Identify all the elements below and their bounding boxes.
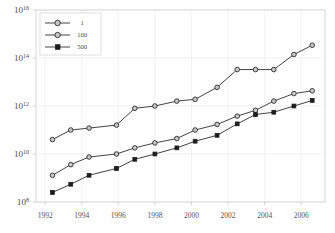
x-tick-label: 1994 <box>74 211 89 220</box>
data-point-marker <box>271 67 276 72</box>
data-point-marker <box>215 122 220 127</box>
data-point-marker <box>133 157 137 161</box>
data-point-marker <box>215 133 219 137</box>
data-point-marker <box>193 128 198 133</box>
x-tick-label: 1992 <box>38 211 53 220</box>
data-point-marker <box>271 99 276 104</box>
legend-label: 1 <box>80 19 83 26</box>
x-tick-label: 1998 <box>147 211 162 220</box>
data-point-marker <box>87 126 92 131</box>
y-tick-label: 1012 <box>14 101 29 111</box>
data-point-marker <box>253 108 258 113</box>
data-point-marker <box>175 146 179 150</box>
data-point-marker <box>69 182 73 186</box>
legend-label: 100 <box>77 31 87 38</box>
data-point-marker <box>292 91 297 96</box>
data-point-marker <box>115 167 119 171</box>
legend-label: 500 <box>77 43 87 50</box>
data-point-marker <box>235 114 240 119</box>
data-series <box>50 89 314 178</box>
y-tick-label: 1016 <box>14 5 29 15</box>
y-tick-label: 108 <box>17 197 29 207</box>
chart-container: 1081010101210141016 19921994199619982000… <box>0 0 335 233</box>
legend-marker <box>55 20 60 25</box>
data-point-marker <box>50 173 55 178</box>
x-tick-label: 2006 <box>294 211 309 220</box>
y-tick-label: 1014 <box>14 53 29 63</box>
data-point-marker <box>153 152 157 156</box>
semilog-line-chart: 1081010101210141016 19921994199619982000… <box>0 0 335 233</box>
data-point-marker <box>193 139 197 143</box>
data-point-marker <box>114 152 119 157</box>
data-point-marker <box>114 123 119 128</box>
data-point-marker <box>215 85 220 90</box>
x-tick-label: 2004 <box>257 211 272 220</box>
x-axis-tick-labels: 19921994199619982000200220042006 <box>38 211 309 220</box>
data-point-marker <box>310 89 315 94</box>
data-point-marker <box>235 67 240 72</box>
data-point-marker <box>235 122 239 126</box>
data-point-marker <box>50 137 55 142</box>
legend-box <box>40 13 101 55</box>
data-point-marker <box>68 128 73 133</box>
data-point-marker <box>272 110 276 114</box>
legend-marker <box>55 45 60 50</box>
data-series-group <box>50 43 314 194</box>
data-point-marker <box>68 162 73 167</box>
data-point-marker <box>153 104 158 109</box>
data-point-marker <box>51 191 55 195</box>
legend-marker <box>55 32 60 37</box>
x-tick-label: 2000 <box>184 211 199 220</box>
x-tick-label: 2002 <box>221 211 236 220</box>
series-line <box>52 45 312 139</box>
data-point-marker <box>132 146 137 151</box>
x-tick-label: 1996 <box>111 211 126 220</box>
data-point-marker <box>87 155 92 160</box>
data-point-marker <box>253 67 258 72</box>
data-point-marker <box>175 136 180 141</box>
chart-legend: 1100500 <box>40 13 101 55</box>
data-point-marker <box>175 99 180 104</box>
y-tick-label: 1010 <box>14 149 29 159</box>
data-point-marker <box>153 141 158 146</box>
data-point-marker <box>310 43 315 48</box>
data-series <box>51 99 315 195</box>
data-point-marker <box>310 99 314 103</box>
data-point-marker <box>292 52 297 57</box>
data-point-marker <box>193 97 198 102</box>
y-axis-tick-labels: 1081010101210141016 <box>14 5 29 207</box>
data-point-marker <box>292 104 296 108</box>
data-point-marker <box>254 113 258 117</box>
data-point-marker <box>87 173 91 177</box>
data-point-marker <box>132 106 137 111</box>
